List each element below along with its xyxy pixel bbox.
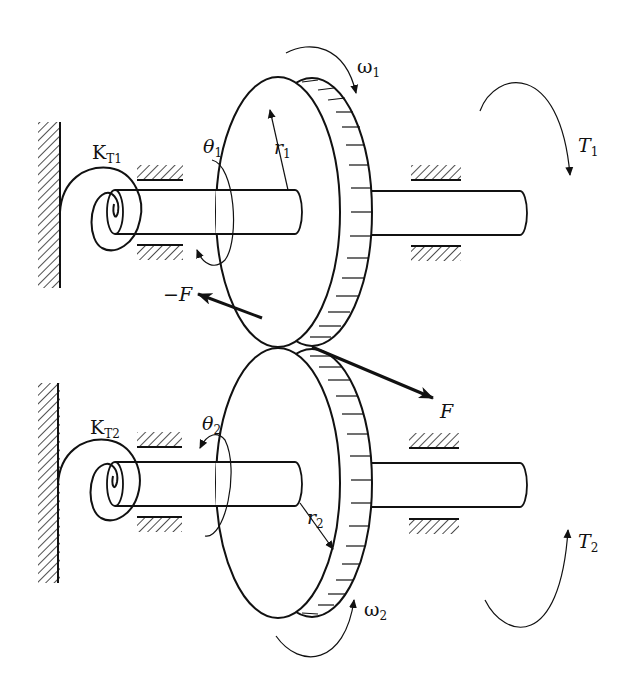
label-torque-1-sub: 1 <box>591 145 599 159</box>
label-theta-1-sub: 1 <box>214 146 222 160</box>
label-r1-main: r <box>274 136 283 158</box>
label-omega-1-main: ω <box>357 55 373 77</box>
label-omega-2-sub: 2 <box>380 609 388 623</box>
label-omega-2-main: ω <box>364 598 380 620</box>
wall-upper <box>38 122 60 288</box>
label-torque-1: T1 <box>578 136 598 158</box>
label-torque-2-main: T <box>578 530 591 552</box>
label-theta-1: θ1 <box>203 137 222 159</box>
label-spring-1-sub: T1 <box>106 152 122 166</box>
diagram-drawing <box>0 0 633 687</box>
label-spring-2: KT2 <box>90 418 120 440</box>
label-r2: r2 <box>307 508 324 530</box>
shaft-1-right <box>370 191 527 235</box>
wall-lower <box>38 383 60 583</box>
label-spring-1-main: K <box>92 141 106 163</box>
label-spring-2-sub: T2 <box>104 427 120 441</box>
torque1-arc <box>480 83 570 175</box>
label-torque-1-main: T <box>578 134 591 156</box>
shaft-2-right <box>368 463 527 507</box>
label-omega-1: ω1 <box>357 57 380 79</box>
shaft-1-hub <box>216 190 302 234</box>
label-force-neg: −F <box>163 285 192 304</box>
label-r1: r1 <box>274 138 291 160</box>
label-theta-2-sub: 2 <box>213 423 221 437</box>
label-torque-2-sub: 2 <box>591 541 599 555</box>
label-theta-2-main: θ <box>202 412 213 434</box>
label-torque-2: T2 <box>578 532 598 554</box>
label-omega-1-sub: 1 <box>373 66 381 80</box>
label-r1-sub: 1 <box>283 147 291 161</box>
label-r2-main: r <box>307 506 316 528</box>
torque2-arc <box>485 530 568 627</box>
label-omega-2: ω2 <box>364 600 387 622</box>
label-force-pos: F <box>440 402 453 421</box>
label-theta-2: θ2 <box>202 414 221 436</box>
label-spring-1: KT1 <box>92 143 122 165</box>
label-theta-1-main: θ <box>203 135 214 157</box>
label-spring-2-main: K <box>90 416 104 438</box>
label-r2-sub: 2 <box>316 517 324 531</box>
gear-diagram: KT1 KT2 θ1 θ2 r1 r2 ω1 ω2 T1 T2 −F F <box>0 0 633 687</box>
